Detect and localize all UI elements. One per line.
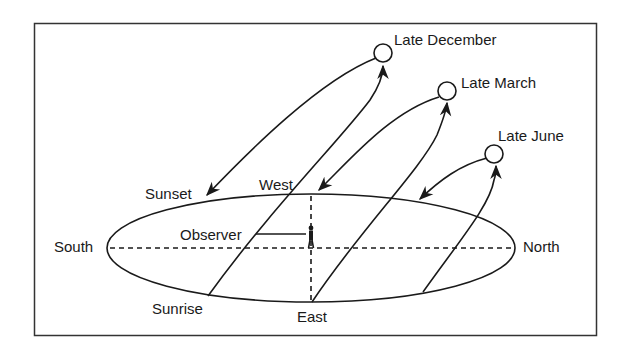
sun-path-diagram: Late December Late March Late June Sunse… [0,0,621,358]
june-setting-path [420,158,487,199]
label-observer: Observer [180,226,242,243]
label-late-june: Late June [498,127,564,144]
march-rising-path [312,103,447,302]
sun-late-december [374,44,392,62]
label-north: North [523,238,560,255]
label-west: West [259,176,294,193]
december-rising-path [208,66,383,296]
sun-late-march [438,82,456,100]
label-sunset: Sunset [145,185,193,202]
sun-late-june [485,145,503,163]
december-setting-path [207,58,376,195]
label-late-march: Late March [461,74,536,91]
label-east: East [297,308,328,325]
label-south: South [54,238,93,255]
label-sunrise: Sunrise [152,300,203,317]
label-late-december: Late December [394,31,497,48]
march-setting-path [319,97,439,190]
diagram-frame [35,24,597,336]
june-rising-path [423,166,496,292]
